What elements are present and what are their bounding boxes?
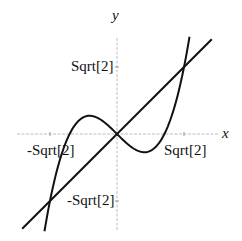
x-tick-label-neg: -Sqrt[2] — [27, 143, 75, 158]
y-tick-label-pos: Sqrt[2] — [71, 59, 114, 74]
x-tick-label-pos: Sqrt[2] — [164, 143, 207, 158]
y-tick-label-neg: -Sqrt[2] — [67, 193, 115, 208]
plot-area — [0, 0, 242, 241]
x-axis-label: x — [222, 126, 229, 141]
y-axis-label: y — [112, 8, 119, 23]
